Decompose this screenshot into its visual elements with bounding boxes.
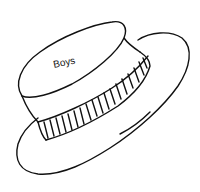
hat-illustration: Boys bbox=[0, 0, 200, 192]
hat-drawing: Boys bbox=[0, 0, 200, 192]
hat-label: Boys bbox=[52, 55, 76, 70]
hat-brim bbox=[17, 33, 189, 174]
hat-crown-left-side bbox=[22, 96, 38, 122]
